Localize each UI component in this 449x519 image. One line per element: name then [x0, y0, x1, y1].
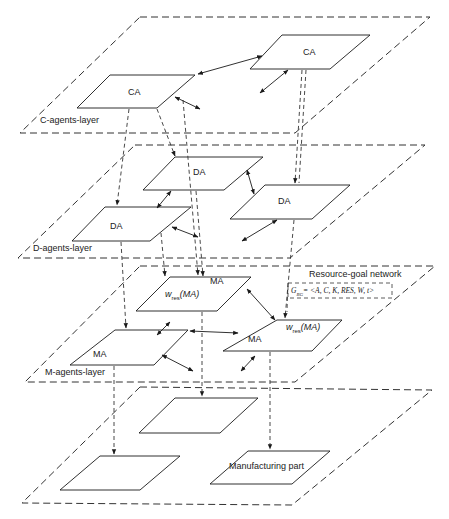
link-ca2-env	[260, 70, 288, 93]
node-ma1-weight: wres(MA)	[165, 290, 199, 301]
link-ma3-ma2	[190, 331, 238, 333]
link-ca1-env	[175, 97, 200, 109]
node-ca2-label: CA	[303, 48, 316, 57]
node-ca1-label: CA	[128, 88, 141, 97]
node-da3-label: DA	[110, 222, 123, 231]
link-da2-ma2	[285, 220, 294, 318]
link-ma3-env	[162, 355, 193, 371]
node-ma1-label: MA	[210, 277, 224, 286]
link-da1-da3	[157, 191, 171, 208]
link-ca1-ca2	[198, 56, 262, 74]
link-da2-env	[242, 220, 277, 241]
link-da1-da2	[247, 170, 254, 194]
node-da3	[72, 207, 191, 241]
node-ma2-label: MA	[248, 335, 262, 344]
node-p3-label: Manufacturing part	[229, 462, 304, 471]
node-ma3-label: MA	[93, 350, 107, 359]
node-ma2	[223, 320, 342, 351]
node-p2	[60, 456, 180, 490]
link-ma2-env	[241, 356, 255, 371]
inter-layer-links	[114, 70, 306, 454]
node-ma2-weight: wres(MA)	[286, 323, 320, 334]
node-da1-label: DA	[193, 168, 206, 177]
resource-goal-network-title: Resource-goal network	[309, 270, 402, 279]
link-ma1-ma2	[247, 289, 275, 320]
resource-goal-network-formula: GRG= <A, C, K, RES, W, t>	[291, 286, 374, 297]
node-p1	[139, 398, 258, 433]
link-ca2-da2b	[299, 70, 306, 183]
link-ca2-da2a	[295, 70, 302, 183]
c-layer-label: C-agents-layer	[40, 116, 99, 125]
multi-agent-layer-diagram	[0, 0, 449, 519]
m-layer-label: M-agents-layer	[45, 368, 105, 377]
link-da3-ma1	[161, 233, 165, 276]
d-layer-label: D-agents-layer	[33, 244, 92, 253]
node-da2-label: DA	[278, 197, 291, 206]
